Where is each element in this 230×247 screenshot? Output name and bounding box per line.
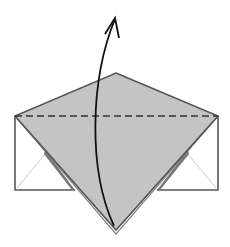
diagram-canvas [0,0,230,247]
origami-diagram: Valley-fold the bottom point up along th… [0,0,230,247]
